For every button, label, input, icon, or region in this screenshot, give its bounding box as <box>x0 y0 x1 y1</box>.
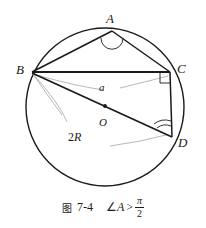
caption-formula: ∠A > π 2 <box>106 196 144 219</box>
diameter-label-radius-symbol: R <box>74 130 81 144</box>
caption-figure-number: 7-4 <box>77 200 93 215</box>
vertex-label-b: B <box>16 63 24 76</box>
segment-ab <box>32 31 112 72</box>
vertex-label-d: D <box>178 136 187 149</box>
center-label-o: O <box>99 117 107 128</box>
geometry-canvas <box>0 0 206 228</box>
fraction-numerator: π <box>135 196 144 207</box>
caption-figure-word: 图 <box>62 200 72 215</box>
angle-symbol-icon: ∠ <box>106 200 117 214</box>
figure-caption: 图 7-4 ∠A > π 2 <box>0 196 206 219</box>
vertex-label-a: A <box>106 12 114 25</box>
geometry-figure: A B C D O a 2R 图 7-4 ∠A > π 2 <box>0 0 206 228</box>
angle-arc-d <box>154 120 171 124</box>
caption-fraction: π 2 <box>135 196 144 219</box>
caption-angle-expression: ∠A <box>106 200 124 215</box>
caption-angle-vertex: A <box>117 200 124 214</box>
angle-arc-a <box>101 38 123 49</box>
side-length-label-a: a <box>99 82 105 93</box>
center-point-o <box>103 104 107 108</box>
angle-arc-d-inner <box>157 125 171 128</box>
diameter-label-2r: 2R <box>68 131 81 143</box>
segment-cd <box>170 72 172 137</box>
caption-relation-operator: > <box>126 200 133 215</box>
vertex-label-c: C <box>177 62 186 75</box>
fraction-denominator: 2 <box>135 208 144 219</box>
